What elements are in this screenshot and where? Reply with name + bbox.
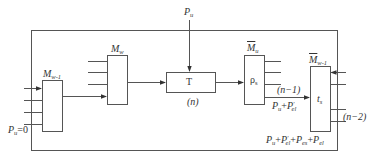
annotation-n-minus-1: (n−1)	[277, 85, 300, 95]
block-m-w	[108, 56, 128, 105]
block-t-s-label: Mw-1	[309, 55, 327, 67]
block-rho-s-inner: ρs	[250, 75, 258, 87]
block-t-s-inner: ts	[317, 94, 322, 106]
annotation-n: (n)	[187, 97, 199, 107]
block-rho-s-label: Mu	[247, 43, 259, 55]
annotation-pu-zero: Pu=0	[8, 125, 28, 137]
block-m-w-minus-1	[43, 81, 63, 132]
label-sub: w-1	[51, 73, 61, 80]
block-m-w-minus-1-label: Mw-1	[43, 69, 61, 81]
block-m-w-label: Mw	[111, 44, 124, 56]
inner-sub: s	[255, 79, 258, 86]
label-sub: u	[190, 11, 193, 18]
annotation-n-minus-2: (n−2)	[343, 112, 366, 122]
label-sub: w-1	[317, 59, 327, 66]
label-sub: w	[119, 48, 123, 55]
top-input-label: Pu	[184, 7, 193, 19]
inner-sub: s	[320, 98, 323, 105]
annotation-pu-plus-pel: Pu+P′el	[272, 101, 296, 113]
annotation-total-power: Pu+P′el+Pes+Pel	[266, 135, 324, 147]
block-t-label: T	[186, 77, 192, 87]
label-sub: u	[255, 47, 258, 54]
